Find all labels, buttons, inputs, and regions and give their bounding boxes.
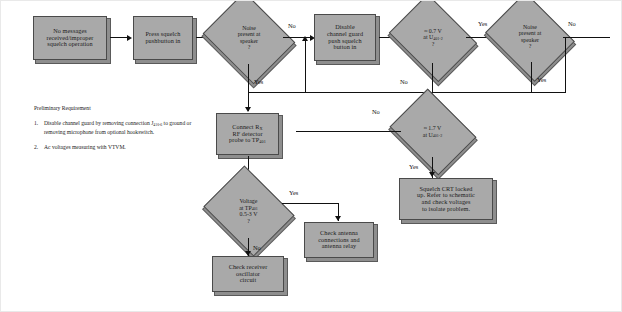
edge-noise2-return-vert [565,37,566,93]
node-check-antenna: Check antenna connections and antenna re… [304,222,374,258]
node-voltage-at-tp: Voltage at TP401 0.5-3 V ? [214,183,283,239]
note-item-2-number: 2. [34,143,38,151]
note-item-1-text-before: Disable channel guard by removing connec… [44,120,153,126]
node-press-squelch: Press squelch pushbutton in [133,16,193,60]
arrowhead-start-to-press [127,35,132,41]
node-no-messages-label: No messages received/improper squelch op… [46,28,93,48]
edge-label-noise2-no: No [568,20,576,27]
node-press-squelch-label: Press squelch pushbutton in [145,31,180,44]
node-noise-present-2: Noise present at speaker ? [496,9,564,64]
edge-noise1-yes-vert [248,64,249,93]
node-squelch-crt-locked-label: Squelch CRT locked up. Refer to schemati… [417,186,475,213]
node-noise-present-1: Noise present at speaker ? [214,9,284,66]
arrowhead-v17-yes [429,172,435,177]
edge-label-voltage-yes: Yes [289,189,298,196]
node-check-receiver-oscillator-label: Check receiver oscillator circuit [229,264,268,284]
node-voltage-0-7-subscript: 401-2 [433,36,442,41]
edge-noise1-yes-horiz [248,92,566,93]
edge-return-into-noise1-no [305,37,306,93]
note-item-2: 2. Ac voltages measuring with VTVM. [34,143,199,151]
note-item-1-number: 1. [34,119,38,127]
edge-noise2-no [563,37,610,38]
edge-label-v17-yes: Yes [409,163,418,170]
node-no-messages: No messages received/improper squelch op… [33,16,107,60]
edge-label-voltage-no: No [253,244,261,251]
edge-v17-no-horiz [296,131,401,132]
note-list: 1. Disable channel guard by removing con… [34,119,199,151]
edge-label-noise1-no: No [288,22,296,29]
node-noise-present-1-label: Noise present at speaker ? [218,24,280,50]
flowchart-canvas: No messages received/improper squelch op… [0,0,622,312]
node-noise-present-2-label: Noise present at speaker ? [500,23,560,49]
edge-start-to-press [110,37,128,38]
note-title: Preliminary Requirement [34,104,199,112]
node-voltage-1-7: ≈ 1.7 V at U401-2 [399,106,466,158]
edge-label-v07-yes: Yes [478,20,487,27]
node-connect-rf-probe: Connect RX RF detector probe to TP401 [216,113,279,155]
edge-voltage-yes-horiz [282,203,339,204]
arrowhead-return-up [302,36,308,41]
arrowhead-voltage-yes [335,216,341,221]
node-voltage-1-7-subscript: 401-2 [433,134,442,139]
note-item-1-subscript: 410-6 [153,123,162,127]
node-squelch-crt-locked: Squelch CRT locked up. Refer to schemati… [399,178,493,220]
note-item-2-text-before: Ac voltages measuring with VTVM. [44,144,126,150]
edge-noise2-yes-horiz [531,92,566,93]
node-check-antenna-label: Check antenna connections and antenna re… [318,230,360,250]
node-disable-channel-guard: Disable channel guard push squelch butto… [314,14,376,61]
tp-subscript: 401 [259,139,266,144]
node-connect-rf-probe-label: Connect RX RF detector probe to TP401 [229,124,266,144]
note-item-1: 1. Disable channel guard by removing con… [34,119,199,136]
arrowhead-to-connect-probe [245,107,251,112]
node-check-receiver-oscillator: Check receiver oscillator circuit [212,256,284,292]
node-voltage-1-7-label: ≈ 1.7 V at U401-2 [403,125,462,138]
rx-subscript: X [260,126,263,131]
edge-label-v07-no: No [400,78,408,85]
edge-label-noise2-yes: Yes [537,76,546,83]
node-voltage-at-tp-label: Voltage at TP401 0.5-3 V ? [218,198,279,224]
preliminary-requirement-note: Preliminary Requirement 1. Disable chann… [34,104,199,158]
node-voltage-at-tp-subscript: 401 [252,206,258,211]
edge-label-v17-no: No [372,108,380,115]
node-disable-channel-guard-label: Disable channel guard push squelch butto… [327,24,363,51]
node-voltage-0-7: ≈ 0.7 V at U401-2 ? [399,11,467,64]
edge-noise2-yes-vert [531,62,532,93]
node-voltage-0-7-label: ≈ 0.7 V at U401-2 ? [403,28,463,48]
edge-label-noise1-yes: Yes [254,78,263,85]
